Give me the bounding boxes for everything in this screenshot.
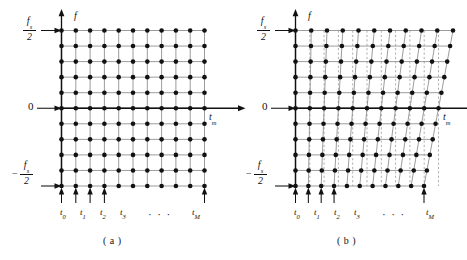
y-label-zero-a: 0	[28, 101, 34, 112]
lattice-sample-point	[59, 168, 64, 173]
lattice-sample-point	[403, 137, 408, 142]
lattice-sample-point	[391, 122, 396, 127]
lattice-sample-point	[389, 137, 394, 142]
lattice-sample-point	[131, 137, 136, 142]
lattice-sample-point	[379, 106, 384, 111]
lattice-sample-point	[320, 153, 325, 158]
lattice-sample-point	[116, 28, 121, 33]
lattice-sample-point	[116, 122, 121, 127]
lattice-sample-point	[202, 44, 207, 49]
lattice-sample-point	[174, 75, 179, 80]
lattice-sample-point	[333, 153, 338, 158]
lattice-sample-point	[131, 122, 136, 127]
x-tick-label-t2-b: t2	[334, 208, 340, 219]
lattice-sample-point	[59, 106, 64, 111]
lattice-sample-point	[412, 75, 417, 80]
y-label-bottom-sign-a: −	[12, 169, 18, 179]
lattice-sample-point	[384, 59, 389, 64]
lattice-sample-point	[395, 90, 400, 95]
lattice-sample-point	[202, 122, 207, 127]
lattice-sample-point	[159, 90, 164, 95]
lattice-sample-point	[202, 59, 207, 64]
lattice-sample-point	[131, 90, 136, 95]
lattice-sample-point	[359, 168, 364, 173]
lattice-sample-point	[362, 137, 367, 142]
lattice-sample-point	[131, 75, 136, 80]
lattice-sample-point	[188, 122, 193, 127]
y-label-top-denominator-a: 2	[26, 31, 33, 42]
lattice-sample-point	[188, 106, 193, 111]
lattice-sample-point	[293, 75, 298, 80]
y-label-bottom-numerator-a: fs	[23, 160, 30, 174]
lattice-sample-point	[159, 59, 164, 64]
lattice-sample-point	[408, 106, 413, 111]
lattice-sample-point	[293, 168, 298, 173]
lattice-sample-point	[188, 59, 193, 64]
lattice-sample-point	[321, 137, 326, 142]
lattice-sample-point	[293, 122, 298, 127]
lattice-sample-point	[436, 106, 441, 111]
lattice-sample-point	[348, 137, 353, 142]
lattice-sample-point	[410, 90, 415, 95]
lattice-sample-point	[321, 122, 326, 127]
x-tick-label-t0-a: t0	[60, 208, 66, 219]
lattice-sample-point	[345, 184, 350, 189]
lattice-sample-point	[188, 75, 193, 80]
lattice-sample-point	[116, 75, 121, 80]
y-label-bottom-denominator-b: 2	[257, 175, 264, 186]
lattice-sample-point	[202, 168, 207, 173]
lattice-sample-point	[159, 153, 164, 158]
lattice-sample-point	[202, 153, 207, 158]
lattice-sample-point	[188, 184, 193, 189]
y-label-top-numerator-b: fs	[260, 16, 267, 30]
lattice-sample-point	[159, 122, 164, 127]
lattice-sample-point	[369, 59, 374, 64]
lattice-sample-point	[145, 59, 150, 64]
lattice-sample-point	[174, 106, 179, 111]
lattice-sample-point	[385, 168, 390, 173]
lattice-sample-point	[333, 168, 338, 173]
y-label-bottom-fraction-a: fs 2	[20, 160, 33, 186]
y-label-top-fraction-b: fs 2	[257, 16, 270, 42]
lattice-sample-point	[340, 44, 345, 49]
lattice-sample-point	[74, 153, 79, 158]
lattice-sample-point	[435, 28, 440, 33]
lattice-sample-point	[293, 184, 298, 189]
lattice-sample-point	[131, 168, 136, 173]
lattice-sample-point	[322, 106, 327, 111]
lattice-sample-point	[131, 59, 136, 64]
lattice-sample-point	[354, 59, 359, 64]
lattice-sample-point	[401, 44, 406, 49]
lattice-sample-point	[293, 44, 298, 49]
lattice-sample-point	[356, 28, 361, 33]
lattice-sample-point	[347, 153, 352, 158]
lattice-sample-point	[174, 44, 179, 49]
lattice-sample-point	[439, 90, 444, 95]
lattice-sample-point	[398, 168, 403, 173]
lattice-sample-point	[353, 75, 358, 80]
lattice-sample-point	[374, 153, 379, 158]
lattice-sample-point	[363, 122, 368, 127]
lattice-sample-point	[427, 75, 432, 80]
lattice-sample-point	[188, 168, 193, 173]
lattice-sample-point	[355, 44, 360, 49]
panel-b-caption: ( b )	[337, 236, 356, 246]
lattice-sample-point	[131, 28, 136, 33]
lattice-sample-point	[188, 28, 193, 33]
lattice-sample-point	[433, 122, 438, 127]
lattice-sample-point	[202, 75, 207, 80]
lattice-sample-point	[202, 28, 207, 33]
lattice-sample-point	[419, 28, 424, 33]
lattice-sample-point	[445, 59, 450, 64]
lattice-sample-point	[88, 75, 93, 80]
lattice-sample-point	[334, 137, 339, 142]
lattice-sample-point	[74, 122, 79, 127]
lattice-sample-point	[59, 184, 64, 189]
lattice-sample-point	[319, 168, 324, 173]
lattice-sample-point	[145, 44, 150, 49]
lattice-sample-point	[145, 153, 150, 158]
lattice-sample-point	[102, 106, 107, 111]
lattice-sample-point	[102, 44, 107, 49]
y-label-zero-b: 0	[262, 101, 268, 112]
lattice-sample-point	[74, 137, 79, 142]
